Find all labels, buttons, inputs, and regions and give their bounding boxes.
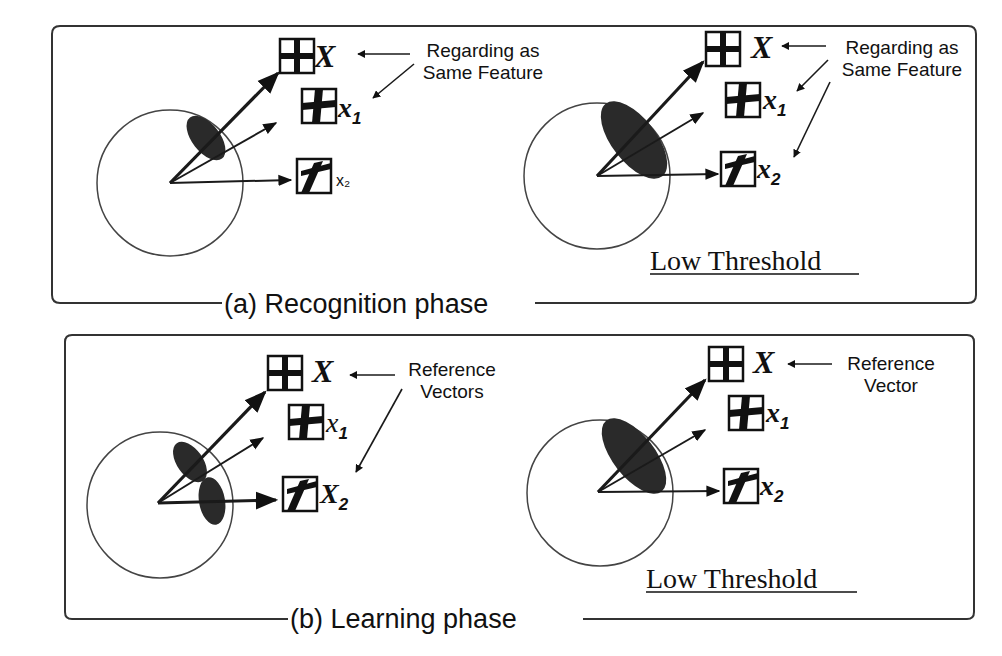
caption-learning: (b) Learning phase [290, 604, 517, 634]
reference-label: X [752, 344, 775, 380]
reference-pattern-icon [709, 347, 743, 381]
input-1-label: x1 [762, 84, 786, 120]
input-2-label: x2 [759, 470, 784, 506]
input-vector-2-arrow [170, 180, 291, 183]
input-vector-2-arrow [598, 491, 719, 492]
caption-recognition: (a) Recognition phase [224, 289, 488, 319]
input-pattern-2-icon [297, 159, 331, 193]
annotation-line-2: Vectors [420, 381, 483, 402]
annotation-line-2: Same Feature [842, 59, 962, 80]
input-1-label: x1 [337, 92, 361, 128]
annotation-arrow-to-x1 [797, 60, 828, 91]
reference-label: X [311, 353, 334, 389]
annotation-arrow-to-x1 [373, 64, 414, 98]
reference-label: X [750, 29, 773, 65]
annotation-line-2: Same Feature [423, 62, 543, 83]
faded-input-label: x₂ [336, 172, 350, 189]
vector-quantization-diagram: (a) Recognition phase X x1 x₂ Regarding … [0, 0, 1002, 656]
reference-vector-2-arrow [158, 500, 276, 503]
annotation-line-1: Regarding as [426, 40, 539, 61]
input-2-label: x2 [756, 153, 781, 189]
input-pattern-1-icon [729, 396, 763, 430]
input-pattern-2-icon [721, 152, 755, 186]
reference-pattern-icon [706, 32, 740, 66]
threshold-label: Low Threshold [650, 245, 821, 276]
annotation-line-2: Vector [864, 375, 919, 396]
annotation-arrow-to-x2 [794, 82, 830, 157]
annotation-line-1: Regarding as [845, 37, 958, 58]
learning-left: X x1 X2 Reference Vectors [87, 353, 496, 578]
input-pattern-2-icon [724, 469, 758, 503]
annotation-line-1: Reference [847, 353, 935, 374]
recognition-left: X x1 x₂ Regarding as Same Feature [97, 38, 543, 256]
reference-pattern-icon [268, 356, 302, 390]
reference-pattern-icon [280, 39, 314, 73]
input-pattern-1-icon [726, 83, 760, 117]
input-1-label: x1 [765, 397, 789, 433]
learning-right: X x1 x2 Reference Vector Low Threshold [527, 344, 935, 594]
input-1-label: x1 [325, 407, 348, 443]
panel-recognition: (a) Recognition phase X x1 x₂ Regarding … [52, 26, 976, 319]
input-2-label: X2 [319, 478, 349, 514]
input-vector-2-arrow [597, 174, 718, 176]
acceptance-region [179, 109, 233, 167]
recognition-right: X x1 x2 Regarding as Same Feature Low Th… [524, 29, 962, 276]
annotation-line-1: Reference [408, 359, 496, 380]
reference-label: X [313, 38, 336, 74]
panel-learning: (b) Learning phase X x1 X2 Reference Vec… [65, 335, 974, 634]
input-pattern-1-icon [289, 405, 323, 439]
input-pattern-2-icon [283, 477, 317, 511]
annotation-arrow-to-X2 [356, 389, 402, 472]
reference-vector-arrow [170, 73, 278, 183]
threshold-label: Low Threshold [646, 563, 817, 594]
input-pattern-1-icon [302, 89, 336, 123]
